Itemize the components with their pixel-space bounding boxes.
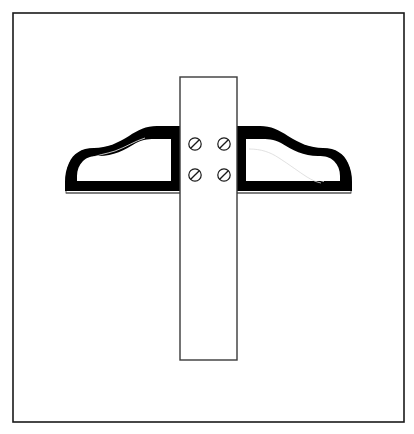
vertical-strap — [180, 77, 237, 360]
screw-bottom-right — [218, 169, 230, 181]
figure-page — [0, 0, 414, 434]
technical-drawing — [0, 0, 414, 434]
screw-bottom-left — [189, 169, 201, 181]
screw-top-right — [218, 138, 230, 150]
screw-top-left — [189, 138, 201, 150]
